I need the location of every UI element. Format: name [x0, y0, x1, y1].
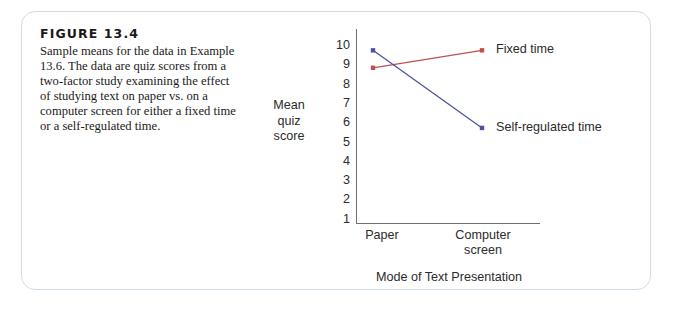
series-line	[373, 50, 482, 128]
x-tick-label-computer-screen: Computerscreen	[446, 228, 520, 257]
figure-number: FIGURE 13.4	[40, 26, 240, 41]
figure-frame: FIGURE 13.4 Sample means for the data in…	[21, 11, 651, 290]
series-self-regulated-time	[371, 48, 492, 130]
data-point-marker	[371, 48, 375, 52]
series-line	[373, 50, 482, 67]
series-label-fixed-time: Fixed time	[496, 42, 554, 56]
series-label-self-regulated-time: Self-regulated time	[496, 120, 602, 134]
x-axis-title: Mode of Text Presentation	[334, 270, 564, 284]
caption-block: FIGURE 13.4 Sample means for the data in…	[40, 26, 240, 135]
x-tick-label-part: Computer	[446, 228, 520, 243]
series-fixed-time	[371, 48, 492, 70]
line-chart: Mean quiz score 10987654321 Paper Comput…	[250, 12, 652, 291]
figure-caption: Sample means for the data in Example 13.…	[40, 44, 240, 135]
x-tick-label-paper: Paper	[354, 228, 410, 243]
x-tick-label-part: screen	[446, 243, 520, 258]
data-point-marker	[371, 66, 375, 70]
